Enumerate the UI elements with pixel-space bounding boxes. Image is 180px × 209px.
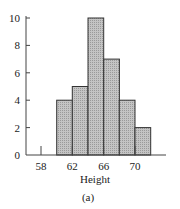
histogram-bar [72,87,88,156]
y-tick-label: 4 [15,94,21,106]
histogram-bar [135,128,151,155]
x-tick-label: 66 [98,160,110,172]
x-axis-label: Height [80,173,110,185]
y-tick-label: 10 [9,12,21,24]
x-tick-label: 70 [130,160,142,172]
y-ticks: 0246810 [9,12,30,161]
y-tick-label: 8 [15,39,21,51]
histogram-bar [119,100,135,155]
histogram-chart: 0246810 58626670 Height (a) [0,0,180,209]
histogram-bar [88,18,104,155]
x-tick-label: 58 [36,160,48,172]
y-tick-label: 2 [15,122,21,134]
y-tick-label: 0 [15,149,21,161]
x-tick-label: 62 [67,160,78,172]
figure-caption: (a) [82,191,95,204]
y-tick-label: 6 [15,67,21,79]
histogram-bar [57,100,73,155]
bars [57,18,151,155]
histogram-bar [104,59,120,155]
